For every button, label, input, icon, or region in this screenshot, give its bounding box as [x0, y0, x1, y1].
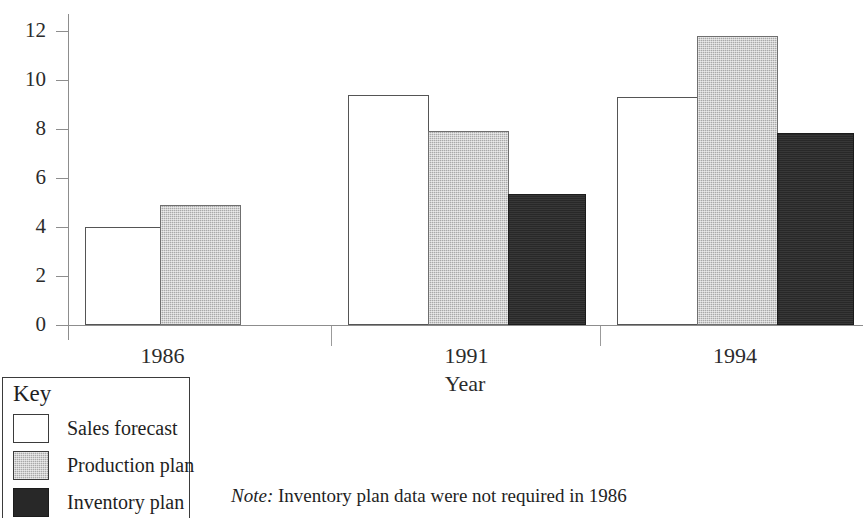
y-axis-tick-label: 6 [0, 167, 46, 188]
legend-title: Key [13, 382, 51, 406]
y-axis-tick-label: 4 [0, 216, 46, 237]
bar-1991-white [348, 95, 429, 325]
bar-1991-gray [428, 131, 509, 325]
y-axis-tick-label: 2 [0, 265, 46, 286]
x-axis-title: Year [395, 373, 535, 395]
legend-label-sales-forecast: Sales forecast [67, 416, 178, 440]
chart-note: Note: Inventory plan data were not requi… [231, 485, 627, 507]
x-axis-label-group-0: 1986 [85, 345, 240, 367]
x-axis-label-group-2: 1994 [617, 345, 853, 367]
bar-1994-gray [697, 36, 778, 325]
x-axis-label-group-1: 1991 [348, 345, 585, 367]
legend-item-sales-forecast: Sales forecast [13, 411, 191, 445]
chart-note-keyword: Note: [231, 485, 273, 506]
x-axis-line [68, 325, 863, 326]
y-axis-tick-label: 0 [0, 314, 46, 335]
legend-swatch-white-icon [13, 414, 49, 443]
y-axis-tick-label: 10 [0, 69, 46, 90]
chart-note-text: Inventory plan data were not required in… [273, 485, 627, 506]
plot-area [68, 14, 863, 325]
legend: Key Sales forecast Production plan Inven… [2, 377, 190, 518]
bar-1986-white [85, 227, 161, 325]
bar-1994-black [777, 133, 854, 325]
legend-label-production-plan: Production plan [67, 453, 194, 477]
x-axis-group-separator [331, 326, 332, 346]
legend-item-inventory-plan: Inventory plan [13, 485, 191, 518]
y-axis-tick-label: 12 [0, 20, 46, 41]
legend-item-production-plan: Production plan [13, 448, 191, 482]
y-axis-tick [56, 325, 69, 326]
bar-1986-gray [160, 205, 241, 325]
legend-label-inventory-plan: Inventory plan [67, 490, 184, 514]
y-axis-tick-label: 8 [0, 118, 46, 139]
legend-swatch-black-icon [13, 488, 49, 517]
legend-swatch-gray-icon [13, 451, 49, 480]
bar-1994-white [617, 97, 698, 325]
x-axis-group-separator [600, 326, 601, 346]
bar-chart: 024681012 1986 1991 1994 Year Key Sales … [0, 0, 865, 518]
bar-1991-black [508, 194, 586, 325]
